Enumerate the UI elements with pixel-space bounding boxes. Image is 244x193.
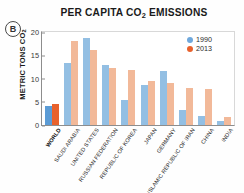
bar-1990 — [198, 116, 205, 125]
bar-1990 — [217, 121, 224, 125]
y-axis-label-main: METRIC TONS CO — [18, 33, 27, 100]
chart-figure: B PER CAPITA CO2 EMISSIONS METRIC TONS C… — [0, 0, 244, 193]
chart-title-main: PER CAPITA CO — [60, 7, 141, 18]
legend-dot-1990 — [187, 37, 193, 43]
bar-group — [121, 31, 135, 125]
y-axis-tick: 15 — [31, 51, 42, 60]
bar-2013 — [128, 70, 135, 125]
y-axis-tick: 0 — [35, 121, 42, 130]
bar-group — [45, 31, 59, 125]
y-axis-tick: 20 — [31, 28, 42, 37]
chart-title-tail: EMISSIONS — [146, 7, 207, 18]
bar-1990 — [121, 100, 128, 125]
x-axis-tick-label: JAPAN — [142, 127, 157, 145]
y-axis-label-subscript: 2 — [21, 29, 27, 32]
x-axis-tick-label: CHINA — [200, 127, 215, 145]
chart-legend: 19902013 — [187, 36, 212, 52]
chart-title: PER CAPITA CO2 EMISSIONS — [34, 7, 234, 18]
legend-dot-2013 — [187, 46, 193, 52]
y-axis-tick: 10 — [31, 74, 42, 83]
bar-1990 — [64, 63, 71, 126]
bar-group — [83, 31, 97, 125]
x-axis-tick-label: REPUBLIC OF KOREA — [99, 127, 138, 180]
bar-1990 — [179, 110, 186, 125]
y-axis-tick: 5 — [35, 97, 42, 106]
bar-group — [102, 31, 116, 125]
legend-item: 2013 — [187, 45, 212, 52]
bar-2013 — [90, 50, 97, 125]
y-axis-label: METRIC TONS CO2 — [18, 22, 27, 108]
bar-1990 — [102, 65, 109, 125]
x-axis-tick-label: WORLD — [44, 127, 61, 148]
bar-2013 — [148, 81, 155, 125]
bar-2013 — [71, 41, 78, 125]
bar-2013 — [224, 117, 231, 125]
x-axis-labels: WORLDSAUDI ARABIAUNITED STATESRUSSIAN FE… — [42, 127, 234, 193]
bar-1990 — [83, 38, 90, 125]
x-axis-tick-label: INDIA — [221, 127, 235, 143]
bar-1990 — [160, 71, 167, 125]
bar-group — [141, 31, 155, 125]
legend-item: 1990 — [187, 36, 212, 43]
chart-title-subscript: 2 — [142, 11, 146, 20]
bar-1990 — [45, 106, 52, 125]
bar-2013 — [167, 83, 174, 125]
bar-2013 — [186, 88, 193, 125]
bar-2013 — [205, 89, 212, 125]
bar-1990 — [141, 85, 148, 125]
bar-2013 — [109, 68, 116, 125]
legend-label: 2013 — [196, 45, 212, 52]
bar-group — [217, 31, 231, 125]
legend-label: 1990 — [196, 36, 212, 43]
bar-2013 — [52, 104, 59, 125]
bar-group — [64, 31, 78, 125]
bar-group — [160, 31, 174, 125]
